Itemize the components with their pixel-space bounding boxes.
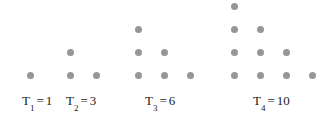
dot xyxy=(231,26,238,33)
dot xyxy=(231,72,238,79)
label-t1: T1=1 xyxy=(22,94,52,111)
dot xyxy=(283,72,290,79)
label-t2-value: 3 xyxy=(90,93,97,108)
label-t3-symbol: T xyxy=(145,93,153,108)
label-t3-equals: = xyxy=(159,93,166,108)
label-t3: T3=6 xyxy=(145,94,175,111)
label-t1-subscript: 1 xyxy=(30,103,35,113)
label-t4: T4=10 xyxy=(253,94,290,111)
dot xyxy=(231,3,238,10)
dot xyxy=(257,72,264,79)
label-t2-subscript: 2 xyxy=(74,103,79,113)
label-t2-equals: = xyxy=(80,93,87,108)
label-t4-equals: = xyxy=(267,93,274,108)
label-t1-value: 1 xyxy=(46,93,53,108)
label-t4-value: 10 xyxy=(277,93,290,108)
label-t3-value: 6 xyxy=(169,93,176,108)
dot xyxy=(309,72,316,79)
label-t1-symbol: T xyxy=(22,93,30,108)
triangular-numbers-figure: T1=1 T2=3 T3=6 T4=10 xyxy=(0,0,333,118)
label-t2-symbol: T xyxy=(66,93,74,108)
label-t2: T2=3 xyxy=(66,94,96,111)
dot xyxy=(257,49,264,56)
label-t1-equals: = xyxy=(36,93,43,108)
dot xyxy=(257,26,264,33)
label-t4-symbol: T xyxy=(253,93,261,108)
dot xyxy=(283,49,290,56)
label-t3-subscript: 3 xyxy=(153,103,158,113)
label-t4-subscript: 4 xyxy=(261,103,266,113)
dot xyxy=(231,49,238,56)
